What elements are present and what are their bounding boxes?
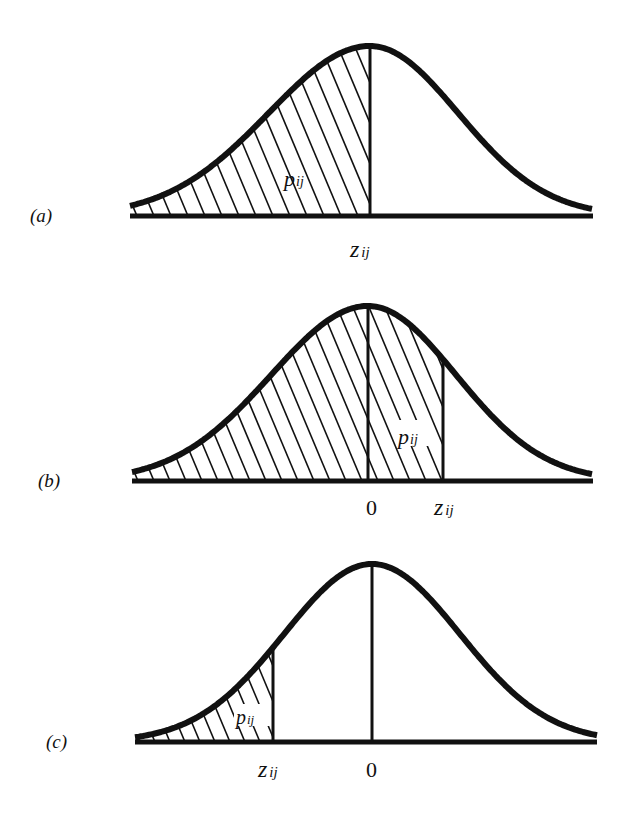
normal-curve-figure: (a) pij zij (b) pij 0 zij (c) pij zij 0 <box>0 0 631 821</box>
panel-label-a: (a) <box>30 205 52 227</box>
normal-curve-c <box>135 564 597 737</box>
panel-a: (a) pij zij <box>30 26 593 262</box>
hatch-c <box>42 544 350 742</box>
axis-label-zij-c: zij <box>257 756 278 782</box>
hatch-b <box>40 286 522 481</box>
axis-label-zij-a: zij <box>349 236 370 262</box>
panel-label-c: (c) <box>46 731 67 753</box>
axis-label-zij-b: zij <box>433 494 454 520</box>
axis-label-zero-b: 0 <box>366 495 377 520</box>
panel-c: (c) pij zij 0 <box>42 544 597 782</box>
area-label-a: pij <box>282 166 304 191</box>
axis-label-zero-c: 0 <box>366 757 377 782</box>
panel-label-b: (b) <box>38 470 60 492</box>
normal-curve-b <box>132 306 592 474</box>
hatch-a <box>40 26 443 216</box>
panel-b: (b) pij 0 zij <box>38 286 593 520</box>
